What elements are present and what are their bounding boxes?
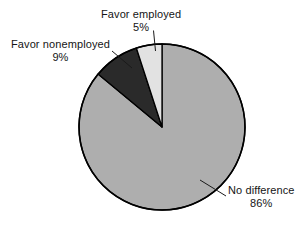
pie-label-no-difference: No difference 86% bbox=[228, 184, 295, 210]
pie-label-favor-employed-name: Favor employed bbox=[101, 8, 181, 21]
pie-label-favor-nonemployed: Favor nonemployed 9% bbox=[11, 38, 110, 64]
pie-label-favor-nonemployed-value: 9% bbox=[11, 51, 110, 64]
pie-label-no-difference-name: No difference bbox=[228, 184, 295, 197]
pie-chart-figure: Favor employed 5% Favor nonemployed 9% N… bbox=[0, 0, 306, 226]
pie-label-favor-nonemployed-name: Favor nonemployed bbox=[11, 38, 110, 51]
pie-label-no-difference-value: 86% bbox=[228, 197, 295, 210]
pie-label-favor-employed-value: 5% bbox=[101, 21, 181, 34]
pie-label-favor-employed: Favor employed 5% bbox=[101, 8, 181, 34]
